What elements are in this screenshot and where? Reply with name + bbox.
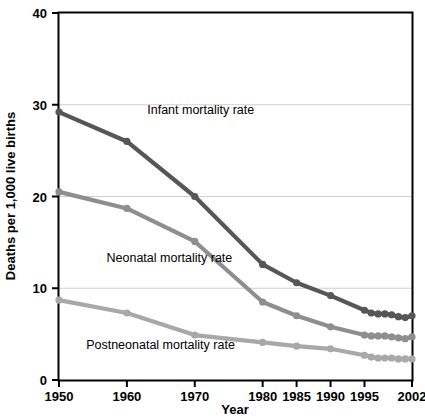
data-point xyxy=(402,335,409,342)
data-point xyxy=(327,292,334,299)
data-point xyxy=(381,310,388,317)
series-line-1 xyxy=(59,192,412,339)
x-axis-title: Year xyxy=(221,402,248,417)
data-point xyxy=(293,279,300,286)
y-tick-label-40: 40 xyxy=(33,6,47,21)
series-label-2: Postneonatal mortality rate xyxy=(86,338,235,352)
x-tick-label-2002: 2002 xyxy=(398,389,425,404)
data-point xyxy=(395,313,402,320)
data-point xyxy=(259,339,266,346)
data-point xyxy=(388,354,395,361)
x-tick-label-1995: 1995 xyxy=(350,389,379,404)
data-point xyxy=(408,333,415,340)
data-point xyxy=(55,297,62,304)
data-point xyxy=(374,332,381,339)
y-axis-tick-labels: 010203040 xyxy=(33,6,47,388)
y-tick-label-20: 20 xyxy=(33,190,47,205)
data-point xyxy=(395,334,402,341)
data-point xyxy=(123,309,130,316)
y-axis-title: Deaths per 1,000 live births xyxy=(3,112,18,280)
x-tick-label-1990: 1990 xyxy=(316,389,345,404)
x-tick-label-1960: 1960 xyxy=(112,389,141,404)
data-point xyxy=(402,314,409,321)
data-point xyxy=(368,332,375,339)
data-point xyxy=(55,108,62,115)
data-point xyxy=(368,353,375,360)
data-point xyxy=(395,355,402,362)
data-point xyxy=(381,332,388,339)
data-point xyxy=(381,354,388,361)
data-point xyxy=(361,307,368,314)
data-point xyxy=(191,238,198,245)
data-point xyxy=(408,312,415,319)
x-tick-label-1985: 1985 xyxy=(282,389,311,404)
data-point xyxy=(293,312,300,319)
data-point xyxy=(408,355,415,362)
data-point xyxy=(374,354,381,361)
y-tick-label-0: 0 xyxy=(40,373,47,388)
y-tick-label-30: 30 xyxy=(33,98,47,113)
data-point xyxy=(388,311,395,318)
x-tick-label-1950: 1950 xyxy=(45,389,74,404)
data-point xyxy=(402,355,409,362)
data-point xyxy=(327,323,334,330)
data-point xyxy=(327,345,334,352)
chart-canvas: 010203040 195019601970198019851990199520… xyxy=(0,0,425,420)
y-tick-label-10: 10 xyxy=(33,281,47,296)
data-point xyxy=(368,309,375,316)
infant-mortality-line-chart: 010203040 195019601970198019851990199520… xyxy=(0,0,425,420)
data-point xyxy=(361,352,368,359)
series-label-1: Neonatal mortality rate xyxy=(107,251,233,265)
data-point xyxy=(191,193,198,200)
data-point xyxy=(123,205,130,212)
data-point xyxy=(259,298,266,305)
x-tick-label-1970: 1970 xyxy=(180,389,209,404)
data-point xyxy=(293,342,300,349)
series-line-0 xyxy=(59,112,412,318)
data-point xyxy=(374,310,381,317)
x-tick-label-1980: 1980 xyxy=(248,389,277,404)
data-point xyxy=(55,188,62,195)
data-point xyxy=(123,138,130,145)
data-point xyxy=(259,261,266,268)
series-label-0: Infant mortality rate xyxy=(147,103,254,117)
data-series-group xyxy=(59,112,412,359)
data-point xyxy=(361,331,368,338)
data-point xyxy=(388,333,395,340)
